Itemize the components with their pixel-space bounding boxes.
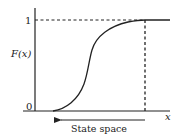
y-tick-label-one: 1 — [25, 15, 31, 26]
y-tick-label-zero: 0 — [26, 101, 32, 112]
cdf-chart: 1 0 F(x) x State space — [0, 0, 179, 136]
y-axis-label: F(x) — [10, 48, 31, 59]
state-space-label: State space — [71, 123, 127, 134]
x-axis-label: x — [165, 111, 171, 122]
cdf-curve — [53, 20, 170, 111]
